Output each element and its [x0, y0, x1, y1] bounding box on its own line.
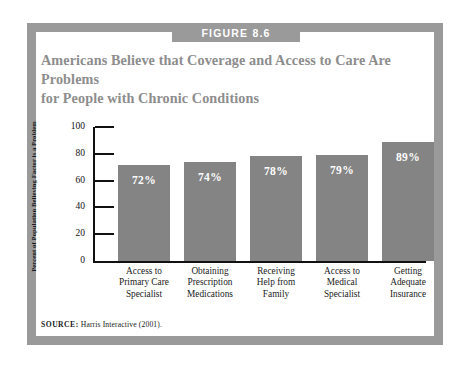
- figure-number-badge: FIGURE 8.6: [172, 23, 300, 42]
- figure-title-line-2: for People with Chronic Conditions: [41, 89, 411, 108]
- figure-title: Americans Believe that Coverage and Acce…: [41, 51, 411, 108]
- source-label: SOURCE:: [41, 320, 79, 329]
- source-note: SOURCE: Harris Interactive (2001).: [41, 320, 162, 329]
- figure-title-line-1: Americans Believe that Coverage and Acce…: [41, 51, 411, 89]
- source-text: Harris Interactive (2001).: [81, 320, 162, 329]
